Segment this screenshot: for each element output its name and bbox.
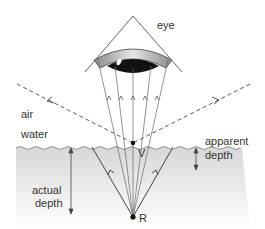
label-apparent-depth-1: apparent — [205, 135, 248, 147]
label-v: V — [138, 147, 146, 159]
label-actual-depth-2: depth — [35, 197, 63, 209]
label-apparent-depth-2: depth — [205, 149, 233, 161]
label-actual-depth-1: actual — [32, 184, 61, 196]
label-water: water — [20, 128, 48, 140]
label-r: R — [139, 212, 147, 224]
refraction-diagram: eye air water apparent depth actual dept… — [0, 0, 265, 229]
label-air: air — [21, 108, 34, 120]
label-eye: eye — [157, 19, 175, 31]
virtual-image-point — [131, 141, 135, 145]
real-object-point — [130, 214, 135, 219]
